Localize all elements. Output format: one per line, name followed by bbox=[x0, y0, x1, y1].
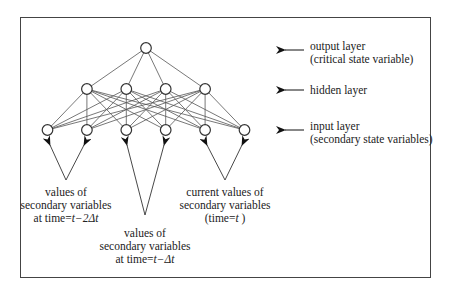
input-node bbox=[121, 125, 132, 136]
output-layer-label: output layer (critical state variable) bbox=[310, 40, 413, 66]
output-node bbox=[141, 43, 152, 54]
connection-line bbox=[48, 89, 87, 130]
time-prefix: at time= bbox=[115, 253, 153, 265]
output-layer-desc: (critical state variable) bbox=[310, 53, 413, 66]
connections bbox=[48, 48, 245, 130]
hidden-node bbox=[121, 84, 132, 95]
input-node bbox=[42, 125, 53, 136]
time-prefix: (time= bbox=[205, 212, 236, 224]
group-label-current: current values of secondary variables (t… bbox=[175, 186, 275, 225]
hidden-node bbox=[160, 84, 171, 95]
arrow-up-icon bbox=[127, 145, 145, 215]
layer-arrows bbox=[285, 50, 304, 130]
arrow-up-icon bbox=[225, 145, 242, 180]
group-line: (time=t ) bbox=[175, 212, 275, 225]
group-line: values of bbox=[95, 227, 195, 240]
arrow-up-icon bbox=[66, 145, 84, 180]
connection-line bbox=[146, 48, 166, 89]
hidden-node bbox=[200, 84, 211, 95]
arrow-up-icon bbox=[207, 145, 225, 180]
time-suffix: ) bbox=[239, 212, 246, 224]
input-layer-label: input layer (secondary state variables) bbox=[310, 120, 433, 146]
group-line: secondary variables bbox=[95, 240, 195, 253]
input-node bbox=[160, 125, 171, 136]
group-label-t-minus-dt: values of secondary variables at time=t−… bbox=[95, 227, 195, 266]
input-node bbox=[200, 125, 211, 136]
connection-line bbox=[205, 89, 244, 130]
group-line: current values of bbox=[175, 186, 275, 199]
connection-line bbox=[126, 48, 146, 89]
hidden-layer-label: hidden layer bbox=[310, 84, 367, 97]
time-prefix: at time= bbox=[34, 212, 72, 224]
input-layer-desc: (secondary state variables) bbox=[310, 133, 433, 146]
time-var: t−Δt bbox=[154, 253, 175, 265]
arrow-up-icon bbox=[50, 145, 66, 180]
connection-line bbox=[87, 48, 146, 89]
group-line: at time=t−Δt bbox=[95, 253, 195, 266]
time-var: t−2Δt bbox=[72, 212, 99, 224]
group-label-t-minus-2dt: values of secondary variables at time=t−… bbox=[16, 186, 116, 225]
hidden-layer-title: hidden layer bbox=[310, 84, 367, 97]
hidden-node bbox=[82, 84, 93, 95]
group-line: at time=t−2Δt bbox=[16, 212, 116, 225]
connection-line bbox=[146, 48, 205, 89]
connection-line bbox=[48, 89, 166, 130]
arrow-up-icon bbox=[145, 145, 164, 215]
input-layer-title: input layer bbox=[310, 120, 433, 133]
group-line: values of bbox=[16, 186, 116, 199]
output-layer-title: output layer bbox=[310, 40, 413, 53]
input-node bbox=[82, 125, 93, 136]
group-line: secondary variables bbox=[16, 199, 116, 212]
group-line: secondary variables bbox=[175, 199, 275, 212]
input-node bbox=[239, 125, 250, 136]
